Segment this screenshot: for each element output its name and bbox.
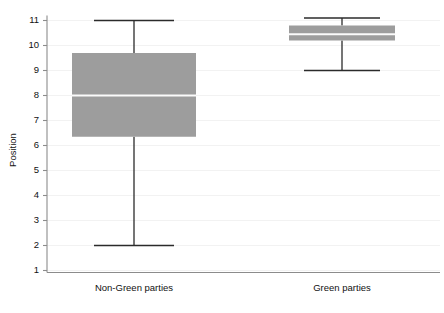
y-tick-label-1: 1 [34, 264, 39, 275]
y-tick-label-7: 7 [34, 114, 39, 125]
box-plot-chart: 1234567891011 Non-Green partiesGreen par… [0, 0, 444, 313]
y-tick-label-11: 11 [29, 14, 39, 25]
category-labels-group: Non-Green partiesGreen parties [95, 282, 371, 293]
box-body-2 [289, 26, 395, 41]
y-tick-label-5: 5 [34, 164, 39, 175]
box-plots-group [72, 18, 395, 246]
category-label-2: Green parties [313, 282, 371, 293]
y-tick-label-2: 2 [34, 239, 39, 250]
y-axis-ticks-group [43, 21, 47, 271]
chart-canvas: 1234567891011 Non-Green partiesGreen par… [0, 0, 444, 313]
category-label-1: Non-Green parties [95, 282, 173, 293]
y-tick-label-8: 8 [34, 89, 39, 100]
y-tick-label-3: 3 [34, 214, 39, 225]
y-axis-title: Position [7, 133, 18, 167]
y-tick-label-6: 6 [34, 139, 39, 150]
y-tick-label-9: 9 [34, 64, 39, 75]
y-axis-tick-labels-group: 1234567891011 [28, 14, 39, 275]
box-plot-2 [289, 18, 395, 71]
y-tick-label-4: 4 [34, 189, 39, 200]
y-tick-label-10: 10 [28, 39, 39, 50]
box-plot-1 [72, 21, 196, 246]
